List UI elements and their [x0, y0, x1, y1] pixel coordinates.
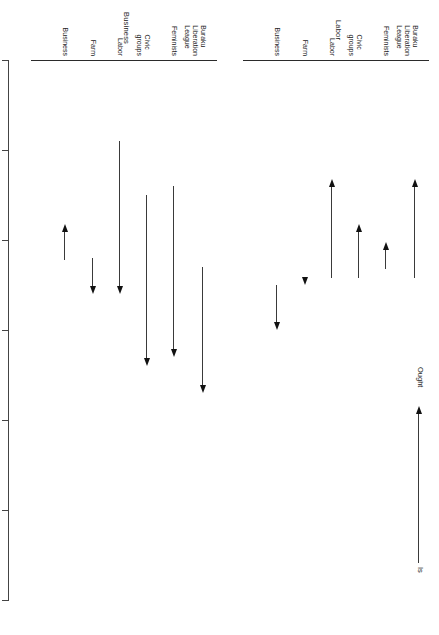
arrowhead-icon	[171, 349, 177, 357]
influence-arrow	[331, 186, 332, 278]
arrowhead-icon	[117, 286, 123, 294]
influence-arrow	[385, 249, 386, 269]
axis-tick	[2, 600, 9, 601]
arrowhead-icon	[274, 322, 280, 330]
rotated-figure-frame: Labor BusinessFarmLaborCivic groupsFemin…	[0, 0, 439, 635]
legend-arrow-icon	[418, 413, 419, 563]
arrowhead-icon	[383, 242, 389, 250]
category-label: Farm	[89, 40, 97, 56]
category-label: Business	[273, 28, 281, 56]
legend: Is Ought	[403, 395, 433, 610]
axis-tick	[2, 510, 9, 511]
legend-label-ought: Ought	[416, 367, 425, 387]
legend-label-is: Is	[416, 567, 425, 573]
category-label: Civic groups	[135, 35, 151, 56]
arrowhead-icon	[416, 406, 422, 414]
figure-canvas: Labor BusinessFarmLaborCivic groupsFemin…	[0, 0, 439, 635]
panel-rule	[243, 60, 429, 61]
category-label: Labor	[116, 38, 124, 56]
panel-rule	[31, 60, 217, 61]
arrowhead-icon	[356, 224, 362, 232]
arrowhead-icon	[90, 286, 96, 294]
axis-tick	[2, 60, 9, 61]
arrowhead-icon	[200, 385, 206, 393]
category-label: Business	[61, 28, 69, 56]
value-axis: 7654321 Scale of Influence	[8, 60, 9, 600]
category-label: Labor	[328, 38, 336, 56]
influence-arrow	[276, 285, 277, 323]
category-label: Buraku Liberation League	[182, 25, 207, 56]
axis-tick	[2, 330, 9, 331]
influence-arrow	[64, 231, 65, 260]
panel-labor: Labor BusinessFarmLaborCivic groupsFemin…	[243, 60, 429, 600]
arrowhead-icon	[62, 224, 68, 232]
category-label: Feminists	[382, 26, 390, 56]
influence-arrow	[414, 186, 415, 278]
arrowhead-icon	[412, 179, 418, 187]
axis-tick	[2, 420, 9, 421]
influence-arrow	[304, 276, 305, 278]
influence-arrow	[202, 267, 203, 386]
category-label: Farm	[301, 40, 309, 56]
influence-arrow	[146, 195, 147, 359]
category-label: Buraku Liberation League	[394, 25, 419, 56]
arrowhead-icon	[329, 179, 335, 187]
arrowhead-icon	[144, 358, 150, 366]
category-label: Feminists	[170, 26, 178, 56]
panel-business: Business BusinessFarmLaborCivic groupsFe…	[31, 60, 217, 600]
influence-arrow	[119, 141, 120, 287]
influence-arrow	[358, 231, 359, 278]
category-label: Civic groups	[347, 35, 363, 56]
axis-tick	[2, 240, 9, 241]
axis-tick	[2, 150, 9, 151]
influence-arrow	[92, 258, 93, 287]
influence-arrow	[173, 186, 174, 350]
arrowhead-icon	[302, 277, 308, 285]
